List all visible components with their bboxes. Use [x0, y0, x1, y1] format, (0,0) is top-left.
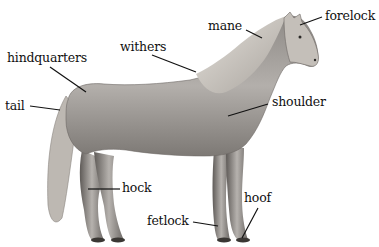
horse-illustration: [0, 0, 379, 247]
label-hoof: hoof: [244, 192, 271, 205]
label-forelock: forelock: [325, 10, 375, 23]
label-mane: mane: [208, 20, 242, 33]
hooves: [91, 238, 250, 243]
label-shoulder: shoulder: [272, 96, 326, 109]
label-fetlock: fetlock: [147, 215, 189, 228]
label-hock: hock: [122, 182, 151, 195]
leader-line-tail: [30, 106, 60, 110]
label-withers: withers: [120, 41, 166, 54]
hind-legs: [80, 150, 124, 240]
label-tail: tail: [5, 100, 25, 113]
leader-line-withers: [152, 55, 196, 72]
horse-anatomy-diagram: mane forelock withers hindquarters shoul…: [0, 0, 379, 247]
label-hindquarters: hindquarters: [7, 52, 87, 65]
leader-line-hoof: [242, 208, 258, 238]
leader-line-hindquarters: [50, 67, 86, 92]
body: [66, 16, 318, 156]
